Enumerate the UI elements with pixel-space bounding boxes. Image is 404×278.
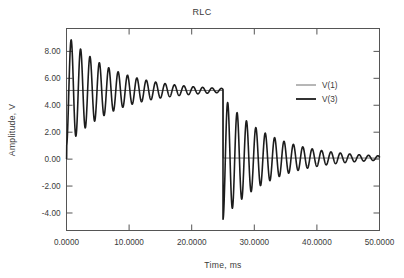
x-axis-tick-labels: 0.000010.000020.000030.000040.000050.000… (54, 238, 395, 247)
y-tick-label: -2.00 (42, 182, 61, 191)
y-axis-tick-labels: -4.00-2.000.002.004.006.008.00 (42, 47, 61, 218)
x-tick-label: 20.0000 (177, 238, 207, 247)
y-tick-label: 2.00 (45, 128, 61, 137)
x-tick-label: 0.0000 (54, 238, 79, 247)
x-tick-label: 40.0000 (302, 238, 332, 247)
x-tick-label: 30.0000 (239, 238, 269, 247)
y-tick-label: -4.00 (42, 209, 61, 218)
chart-legend[interactable]: V(1) V(3) (296, 81, 338, 104)
y-axis-title: Amplitude, V (7, 104, 17, 156)
y-tick-label: 6.00 (45, 74, 61, 83)
series-line-v3[interactable] (67, 40, 380, 219)
legend-label-v1: V(1) (322, 81, 338, 90)
chart-figure: RLC 0.000010.000020.000030.000040.000050… (0, 0, 404, 278)
chart-plot-area[interactable]: 0.000010.000020.000030.000040.000050.000… (0, 0, 404, 278)
y-tick-label: 0.00 (45, 155, 61, 164)
x-axis-title: Time, ms (204, 260, 241, 270)
y-tick-label: 8.00 (45, 47, 61, 56)
legend-label-v3: V(3) (322, 95, 338, 104)
x-tick-label: 10.0000 (114, 238, 144, 247)
y-tick-label: 4.00 (45, 101, 61, 110)
x-tick-label: 50.0000 (365, 238, 395, 247)
